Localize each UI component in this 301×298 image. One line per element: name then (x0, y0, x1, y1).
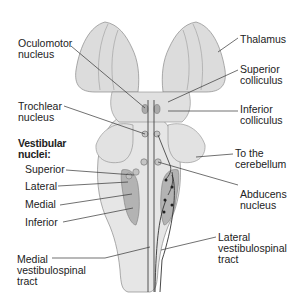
neuron-dot (163, 211, 166, 214)
label-abducens-nucleus: Abducens nucleus (240, 189, 287, 211)
neuron-dot (165, 179, 168, 182)
abducens-nucleus-left (141, 159, 147, 165)
neuron-dot (171, 186, 174, 189)
vestibular-superior-left (133, 169, 139, 175)
leader-thalamus (218, 38, 238, 52)
label-vestibular-inferior: Inferior (25, 217, 58, 228)
label-vestibular-medial: Medial (25, 199, 56, 210)
leader-lateral-vst (161, 237, 216, 250)
midbrain (111, 92, 191, 122)
thalamus-left (76, 22, 139, 92)
neuron-dot (164, 199, 167, 202)
label-inferior-colliculus: Inferior colliculus (240, 104, 283, 126)
oculomotor-nucleus-right (154, 105, 160, 114)
cerebellar-peduncle-left (96, 124, 133, 163)
label-superior-colliculus: Superior colliculus (240, 64, 283, 86)
label-thalamus: Thalamus (240, 34, 286, 45)
label-trochlear-nucleus: Trochlear nucleus (18, 101, 62, 123)
label-oculomotor-nucleus: Oculomotor nucleus (18, 38, 72, 60)
label-vestibular-nuclei-heading: Vestibular nuclei: (18, 138, 66, 160)
label-lateral-vestibulospinal-tract: Lateral vestibulospinal tract (218, 232, 287, 265)
label-to-the-cerebellum: To the cerebellum (235, 148, 286, 170)
trochlear-nucleus-right (154, 131, 160, 137)
neuron-dot (171, 204, 174, 207)
vestibular-lateral-left (126, 173, 132, 179)
label-vestibular-lateral: Lateral (25, 181, 57, 192)
label-medial-vestibulospinal-tract: Medial vestibulospinal tract (17, 254, 86, 287)
thalamus-right (162, 22, 225, 92)
label-vestibular-superior: Superior (25, 164, 65, 175)
